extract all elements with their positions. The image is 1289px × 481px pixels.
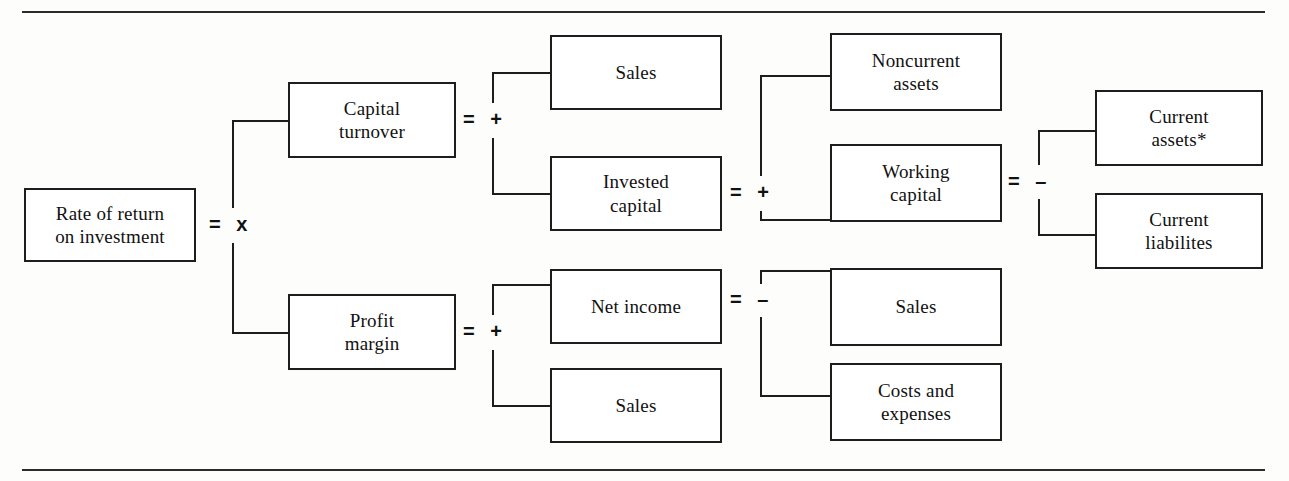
node-net-income[interactable]: Net income <box>550 269 722 344</box>
node-label: Profitmargin <box>337 309 408 355</box>
connector-ic-upper-vertical <box>760 75 762 176</box>
connector-ct-to-invested-capital <box>492 193 552 195</box>
connector-wc-lower-vertical <box>1038 199 1040 236</box>
figure-top-rule <box>22 11 1265 13</box>
figure-canvas: Rate of returnon investment = x Capitalt… <box>0 0 1289 481</box>
node-label: Sales <box>607 61 664 84</box>
node-label: Workingcapital <box>874 160 957 206</box>
node-sales-top[interactable]: Sales <box>550 35 722 110</box>
connector-ic-to-noncurrent-assets <box>760 75 830 77</box>
connector-wc-upper-vertical <box>1038 130 1040 165</box>
connector-pm-to-net-income <box>492 284 552 286</box>
node-sales-bottom[interactable]: Sales <box>550 368 722 443</box>
operator-root-split: = x <box>209 213 252 236</box>
node-current-liabilities[interactable]: Currentliabilites <box>1095 193 1263 269</box>
connector-root-upper-vertical <box>232 120 234 208</box>
figure-bottom-rule <box>22 469 1265 471</box>
node-label: Costs andexpenses <box>870 379 962 425</box>
node-label: Rate of returnon investment <box>47 202 173 248</box>
connector-pm-to-sales <box>492 405 552 407</box>
connector-ni-to-costs-and-expenses <box>760 395 830 397</box>
connector-ni-upper-vertical <box>760 270 762 284</box>
operator-capital-turnover-split: = + <box>463 108 507 131</box>
node-label: Net income <box>583 295 689 318</box>
connector-ni-to-sales <box>760 270 830 272</box>
node-noncurrent-assets[interactable]: Noncurrentassets <box>830 33 1002 111</box>
node-current-assets[interactable]: Currentassets* <box>1095 90 1263 166</box>
connector-root-to-capital-turnover <box>232 120 290 122</box>
node-label: Investedcapital <box>595 170 677 216</box>
node-label: Noncurrentassets <box>864 49 969 95</box>
node-label: Currentliabilites <box>1137 208 1220 254</box>
operator-net-income-split: = – <box>730 288 773 311</box>
connector-ct-to-sales <box>492 72 552 74</box>
node-label: Currentassets* <box>1141 105 1216 151</box>
node-label: Capitalturnover <box>331 97 413 143</box>
node-rate-of-return-on-investment[interactable]: Rate of returnon investment <box>24 188 196 262</box>
node-costs-and-expenses[interactable]: Costs andexpenses <box>830 363 1002 441</box>
node-profit-margin[interactable]: Profitmargin <box>288 294 456 370</box>
connector-wc-to-current-liabilities <box>1038 234 1096 236</box>
connector-ni-lower-vertical <box>760 317 762 397</box>
node-capital-turnover[interactable]: Capitalturnover <box>288 82 456 158</box>
node-label: Sales <box>887 295 944 318</box>
node-invested-capital[interactable]: Investedcapital <box>550 156 722 231</box>
operator-working-capital-split: = – <box>1008 170 1051 193</box>
node-sales-mid[interactable]: Sales <box>830 268 1002 346</box>
connector-root-lower-vertical <box>232 243 234 334</box>
node-label: Sales <box>607 394 664 417</box>
connector-ic-to-working-capital <box>760 219 830 221</box>
connector-ct-lower-vertical <box>492 138 494 195</box>
connector-root-to-profit-margin <box>232 332 290 334</box>
operator-profit-margin-split: = + <box>463 320 507 343</box>
connector-pm-lower-vertical <box>492 350 494 407</box>
connector-wc-to-current-assets <box>1038 130 1096 132</box>
node-working-capital[interactable]: Workingcapital <box>830 144 1002 222</box>
connector-pm-upper-vertical <box>492 284 494 315</box>
operator-invested-capital-split: = + <box>730 181 774 204</box>
connector-ct-upper-vertical <box>492 72 494 103</box>
